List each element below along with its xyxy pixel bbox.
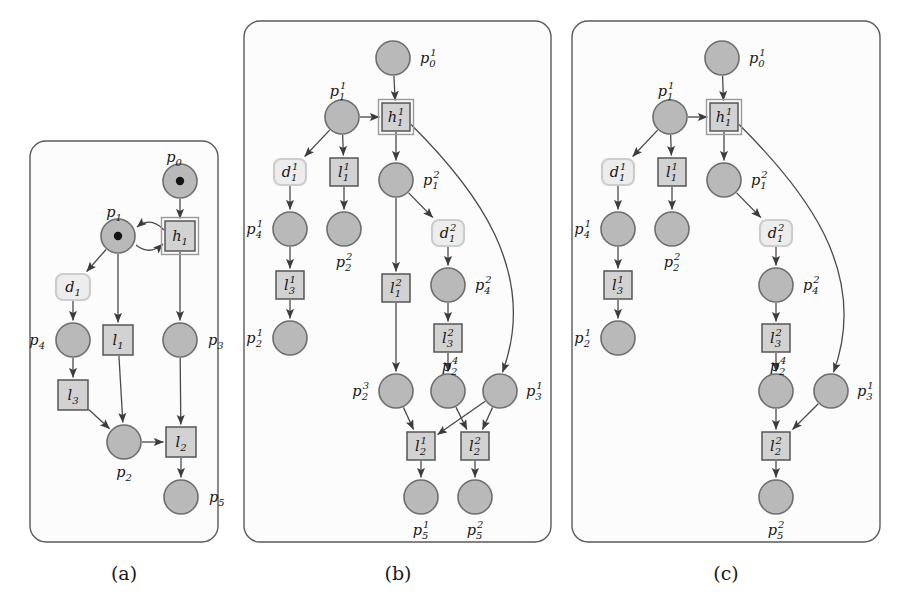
node-delay-d1-1[interactable]: d11 <box>602 159 634 185</box>
node-delay-d1-1[interactable]: d11 <box>274 159 306 185</box>
node-place-p1-2[interactable] <box>379 163 413 197</box>
inner-label: l31 <box>284 274 296 296</box>
node-place-p2-4[interactable] <box>431 374 465 408</box>
node-delay-d1[interactable]: d1 <box>56 274 90 300</box>
inner-label: d12 <box>440 222 457 244</box>
node-transition-l1-2[interactable]: l12 <box>382 274 410 302</box>
node-label-p5-2: p52 <box>768 519 785 541</box>
node-place-p1-1[interactable] <box>653 100 687 134</box>
panel-a: h1d1l1l3l2p0p1p4p3p2p5 <box>29 141 224 542</box>
node-place-p2-2[interactable] <box>327 212 361 246</box>
node-place-p2-2[interactable] <box>655 212 689 246</box>
inner-label: d11 <box>610 161 627 183</box>
node-label-p0-1: p01 <box>420 47 437 69</box>
panel-b: h11d11l11d12l31l12l32l21l22p01p11p12p41p… <box>244 21 551 542</box>
node-transition-l3[interactable]: l3 <box>58 380 88 410</box>
node-place-p5[interactable] <box>164 480 198 514</box>
token-dot <box>176 177 184 185</box>
node-transition-l2-2[interactable]: l22 <box>762 432 790 460</box>
node-label-p2-4: p24 <box>442 355 459 377</box>
node-place-p0-1[interactable] <box>705 41 739 75</box>
edge-p0_1-to-h1_1 <box>723 76 724 101</box>
inner-label: l32 <box>770 327 782 349</box>
node-place-p4-1[interactable] <box>601 212 635 246</box>
node-transition-l1-1[interactable]: l11 <box>330 158 358 186</box>
node-label-p2-2: p22 <box>664 251 681 273</box>
node-transition-l2[interactable]: l2 <box>166 427 196 457</box>
inner-label: l22 <box>770 435 782 457</box>
svg-text:p5: p5 <box>209 489 225 508</box>
node-place-p2-4[interactable] <box>759 374 793 408</box>
node-place-p0-1[interactable] <box>376 41 410 75</box>
svg-text:p12: p12 <box>751 169 768 191</box>
node-place-p3-1[interactable] <box>483 374 517 408</box>
node-label-p4-2: p42 <box>803 274 820 296</box>
node-place-p4-1[interactable] <box>273 212 307 246</box>
node-label-p3-1: p31 <box>526 380 543 402</box>
svg-text:p01: p01 <box>749 47 766 69</box>
node-place-p1-1[interactable] <box>325 100 359 134</box>
node-label-p2-2: p22 <box>336 251 353 273</box>
svg-text:p51: p51 <box>413 519 430 541</box>
figure-canvas: h1d1l1l3l2p0p1p4p3p2p5h11d11l11d12l31l12… <box>0 0 904 613</box>
node-label-p4-1: p41 <box>246 218 263 240</box>
node-transition-l3-1[interactable]: l31 <box>276 271 304 299</box>
node-label-p2-3: p23 <box>352 380 369 402</box>
node-place-p4-2[interactable] <box>759 268 793 302</box>
svg-text:p24: p24 <box>442 355 459 377</box>
svg-text:p52: p52 <box>768 519 785 541</box>
svg-text:p42: p42 <box>803 274 820 296</box>
node-transition-l1[interactable]: l1 <box>103 325 133 355</box>
node-transition-l1-1[interactable]: l11 <box>658 158 686 186</box>
node-delay-d1-2[interactable]: d12 <box>760 220 792 246</box>
node-place-p1-2[interactable] <box>707 163 741 197</box>
node-label-p1-1: p11 <box>658 80 675 102</box>
inner-label: l12 <box>390 277 402 299</box>
node-transition-h1-1[interactable]: h11 <box>707 100 742 135</box>
node-transition-h1[interactable]: h1 <box>162 218 199 255</box>
svg-text:p42: p42 <box>475 274 492 296</box>
edge-p3-to-l2 <box>180 358 181 425</box>
node-place-p5-2[interactable] <box>759 480 793 514</box>
node-label-p2-1: p21 <box>246 327 263 349</box>
node-delay-d1-2[interactable]: d12 <box>432 220 464 246</box>
inner-label: l11 <box>666 161 678 183</box>
svg-text:p41: p41 <box>574 218 591 240</box>
inner-label: l31 <box>612 274 624 296</box>
node-label-p5-2: p52 <box>467 519 484 541</box>
node-transition-l2-1[interactable]: l21 <box>407 432 435 460</box>
node-label-p1-1: p11 <box>330 80 347 102</box>
node-place-p2[interactable] <box>107 425 141 459</box>
node-place-p2-3[interactable] <box>379 374 413 408</box>
node-transition-l3-2[interactable]: l32 <box>434 324 462 352</box>
node-label-p1-2: p12 <box>751 169 768 191</box>
node-label-p5: p5 <box>209 489 225 508</box>
node-place-p4-2[interactable] <box>431 268 465 302</box>
node-transition-l2-2[interactable]: l22 <box>461 432 489 460</box>
svg-text:p01: p01 <box>420 47 437 69</box>
inner-label: l21 <box>415 435 427 457</box>
inner-label: h11 <box>716 106 733 128</box>
inner-label: l32 <box>442 327 454 349</box>
node-place-p3[interactable] <box>163 323 197 357</box>
node-place-p2-1[interactable] <box>273 321 307 355</box>
node-place-p3-1[interactable] <box>814 374 848 408</box>
node-transition-l3-2[interactable]: l32 <box>762 324 790 352</box>
svg-text:p31: p31 <box>526 380 543 402</box>
node-label-p3-1: p31 <box>857 380 874 402</box>
svg-text:p3: p3 <box>208 332 224 351</box>
node-label-p4-2: p42 <box>475 274 492 296</box>
node-transition-h1-1[interactable]: h11 <box>379 100 414 135</box>
node-place-p1[interactable] <box>101 219 135 253</box>
svg-text:p21: p21 <box>574 327 591 349</box>
node-place-p2-1[interactable] <box>601 321 635 355</box>
svg-text:p11: p11 <box>330 80 347 102</box>
token-dot <box>114 232 122 240</box>
node-transition-l3-1[interactable]: l31 <box>604 271 632 299</box>
node-place-p0[interactable] <box>163 164 197 198</box>
node-place-p5-2[interactable] <box>458 480 492 514</box>
node-place-p4[interactable] <box>56 323 90 357</box>
node-label-p3: p3 <box>208 332 224 351</box>
node-place-p5-1[interactable] <box>404 480 438 514</box>
svg-text:p24: p24 <box>770 355 787 377</box>
